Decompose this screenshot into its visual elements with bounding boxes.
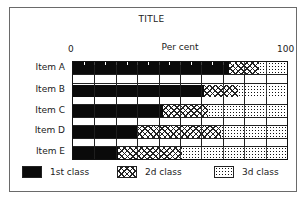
row-label-item-b: Item B	[35, 84, 65, 94]
bar-segment-2d-class	[204, 85, 238, 97]
dotted-swatch-icon	[214, 166, 234, 178]
grid-line-overlay	[116, 62, 117, 159]
grid-line-overlay	[201, 62, 202, 159]
bar-segment-1st-class	[73, 105, 163, 117]
bar-segment-2d-class	[137, 126, 220, 138]
row-label-item-e: Item E	[36, 146, 65, 156]
axis-label: Per cent	[72, 42, 288, 52]
bar-segment-1st-class	[73, 147, 118, 159]
legend-label: 2d class	[145, 167, 182, 177]
bar-segment-3d-class	[221, 126, 287, 138]
grid-line-overlay	[244, 62, 245, 159]
bar-segment-3d-class	[238, 85, 287, 97]
bar-segment-1st-class	[73, 126, 137, 138]
legend-item-2d-class: 2d class	[117, 166, 182, 178]
legend-label: 3d class	[242, 167, 279, 177]
grid-line-overlay	[94, 62, 95, 159]
bar-segment-2d-class	[118, 147, 182, 159]
bar-segment-1st-class	[73, 85, 204, 97]
bar-segment-3d-class	[182, 147, 287, 159]
grid-line-overlay	[223, 62, 224, 159]
grid-line-overlay	[266, 62, 267, 159]
chart-title: TITLE	[0, 14, 303, 24]
axis-max-label: 100	[277, 44, 294, 54]
bar-segment-3d-class	[208, 105, 287, 117]
legend-item-1st-class: 1st class	[22, 166, 89, 178]
grid-line-overlay	[180, 62, 181, 159]
legend-label: 1st class	[50, 167, 89, 177]
grid-line-overlay	[159, 62, 160, 159]
crosshatch-swatch-icon	[117, 166, 137, 178]
grid-line-overlay	[137, 62, 138, 159]
row-label-item-c: Item C	[35, 105, 65, 115]
row-label-item-d: Item D	[35, 125, 65, 135]
legend-item-3d-class: 3d class	[214, 166, 279, 178]
row-label-item-a: Item A	[35, 62, 65, 72]
plot-area	[72, 61, 288, 160]
solid-swatch-icon	[22, 166, 42, 178]
